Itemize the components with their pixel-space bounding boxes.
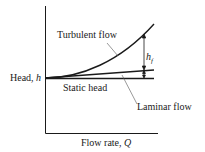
- axes: [46, 6, 159, 134]
- y-axis-var: h: [36, 72, 41, 83]
- x-axis-var: Q: [124, 137, 131, 148]
- head-loss-subscript: f: [151, 57, 153, 65]
- static-head-label: Static head: [63, 83, 107, 93]
- turbulent-flow-label: Turbulent flow: [57, 30, 117, 40]
- x-axis-label-text: Flow rate,: [81, 137, 124, 148]
- y-axis-label-text: Head,: [10, 72, 36, 83]
- y-axis-label: Head, h: [10, 73, 41, 83]
- x-axis-label: Flow rate, Q: [81, 138, 131, 148]
- laminar-flow-label: Laminar flow: [137, 102, 192, 112]
- head-loss-label: hf: [146, 52, 153, 65]
